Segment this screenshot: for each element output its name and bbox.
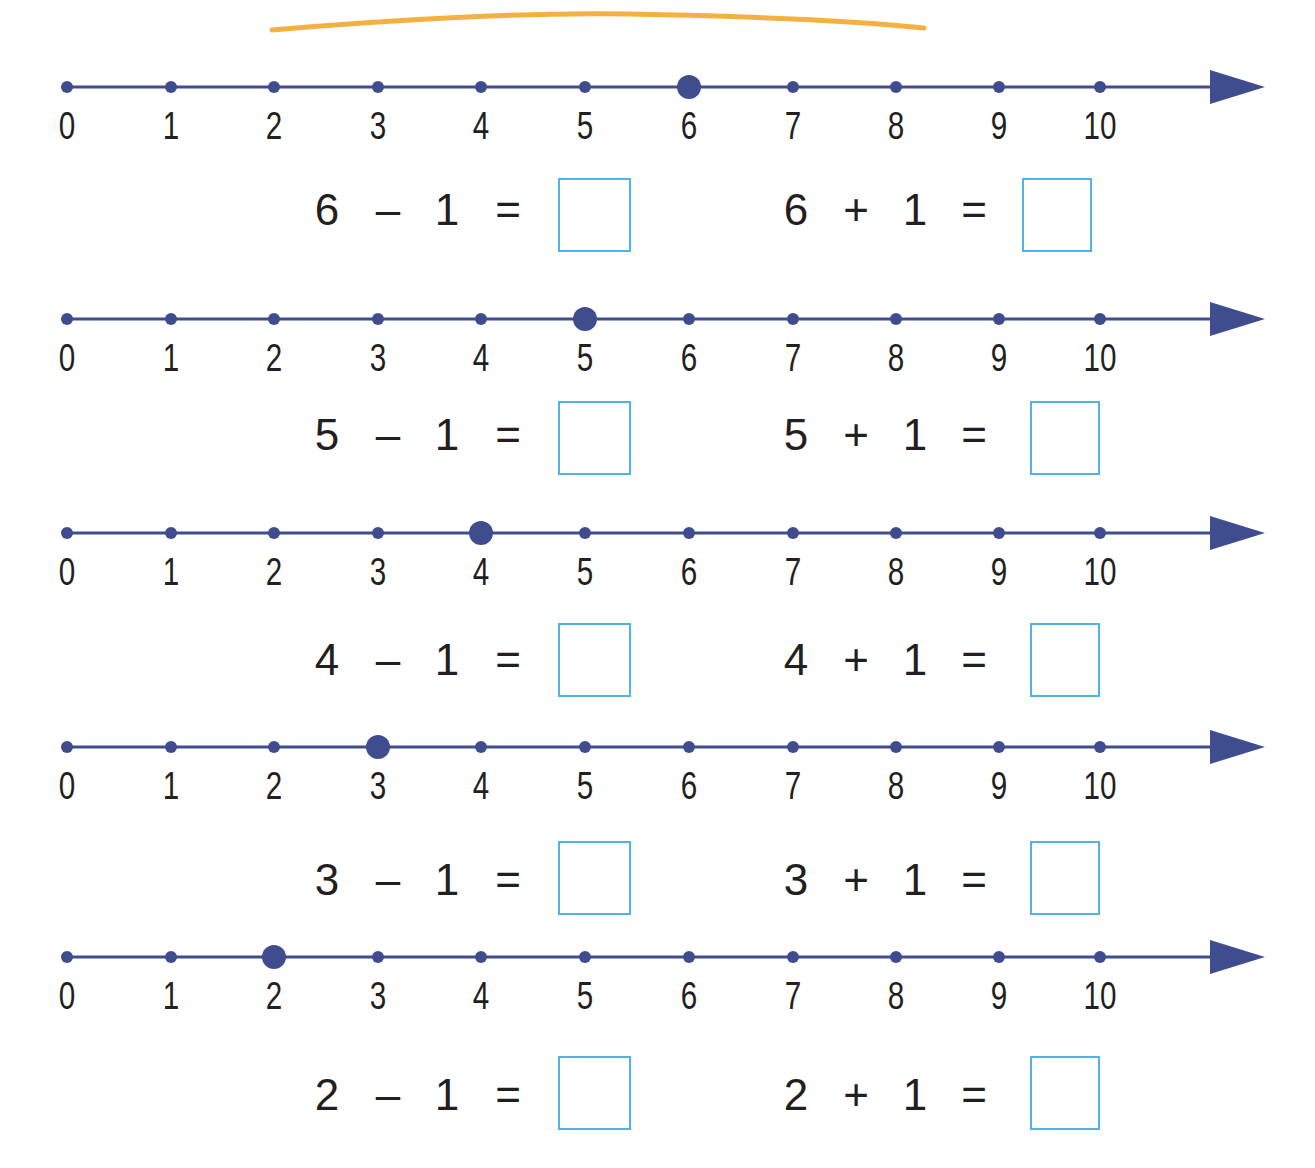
tick-point bbox=[268, 741, 280, 753]
operand-a: 5 bbox=[784, 413, 808, 457]
subtraction-answer-box[interactable] bbox=[558, 178, 631, 252]
subtraction-answer-box[interactable] bbox=[558, 623, 631, 697]
tick-point bbox=[1094, 313, 1106, 325]
tick-label: 8 bbox=[888, 107, 904, 145]
tick-label: 1 bbox=[163, 553, 179, 591]
tick-label: 5 bbox=[577, 107, 593, 145]
arrow-right-icon bbox=[1210, 302, 1265, 336]
operand-b: 1 bbox=[903, 858, 927, 902]
tick-label: 1 bbox=[163, 767, 179, 805]
operator: + bbox=[843, 413, 869, 457]
addition-answer-box[interactable] bbox=[1022, 178, 1092, 252]
tick-point bbox=[993, 81, 1005, 93]
tick-point bbox=[890, 313, 902, 325]
tick-point bbox=[787, 81, 799, 93]
arrow-right-icon bbox=[1210, 730, 1265, 764]
tick-label: 4 bbox=[473, 553, 489, 591]
tick-label: 4 bbox=[473, 107, 489, 145]
tick-point bbox=[61, 313, 73, 325]
operand-a: 6 bbox=[784, 188, 808, 232]
operator: – bbox=[376, 858, 400, 902]
tick-label: 4 bbox=[473, 767, 489, 805]
operand-b: 1 bbox=[903, 188, 927, 232]
addition-answer-box[interactable] bbox=[1030, 1056, 1100, 1130]
number-line bbox=[0, 937, 1315, 1017]
number-line bbox=[0, 299, 1315, 379]
arrow-right-icon bbox=[1210, 70, 1265, 104]
tick-point bbox=[683, 527, 695, 539]
tick-point bbox=[475, 313, 487, 325]
equals-sign: = bbox=[495, 413, 521, 457]
tick-label: 0 bbox=[59, 553, 75, 591]
tick-label: 0 bbox=[59, 767, 75, 805]
operand-b: 1 bbox=[435, 858, 459, 902]
subtraction-answer-box[interactable] bbox=[558, 841, 631, 915]
highlighted-point bbox=[366, 735, 390, 759]
highlighted-point bbox=[677, 75, 701, 99]
tick-point bbox=[579, 741, 591, 753]
tick-label: 9 bbox=[991, 553, 1007, 591]
equals-sign: = bbox=[495, 188, 521, 232]
addition-answer-box[interactable] bbox=[1030, 623, 1100, 697]
tick-point bbox=[61, 81, 73, 93]
operand-a: 6 bbox=[315, 188, 339, 232]
operand-a: 4 bbox=[315, 638, 339, 682]
equals-sign: = bbox=[961, 858, 987, 902]
tick-label: 4 bbox=[473, 339, 489, 377]
tick-label: 9 bbox=[991, 977, 1007, 1015]
tick-point bbox=[787, 527, 799, 539]
tick-point bbox=[1094, 81, 1106, 93]
tick-point bbox=[1094, 741, 1106, 753]
operator: + bbox=[843, 1073, 869, 1117]
equals-sign: = bbox=[961, 188, 987, 232]
tick-label: 10 bbox=[1084, 977, 1117, 1015]
tick-point bbox=[890, 741, 902, 753]
equals-sign: = bbox=[961, 413, 987, 457]
tick-label: 10 bbox=[1084, 767, 1117, 805]
subtraction-answer-box[interactable] bbox=[558, 401, 631, 475]
operand-a: 4 bbox=[784, 638, 808, 682]
tick-label: 6 bbox=[681, 553, 697, 591]
tick-label: 3 bbox=[370, 977, 386, 1015]
tick-label: 7 bbox=[785, 553, 801, 591]
operand-b: 1 bbox=[435, 1073, 459, 1117]
tick-point bbox=[579, 81, 591, 93]
addition-answer-box[interactable] bbox=[1030, 841, 1100, 915]
operand-b: 1 bbox=[903, 638, 927, 682]
tick-label: 5 bbox=[577, 339, 593, 377]
tick-point bbox=[372, 951, 384, 963]
operator: – bbox=[376, 188, 400, 232]
tick-point bbox=[993, 741, 1005, 753]
addition-answer-box[interactable] bbox=[1030, 401, 1100, 475]
tick-label: 7 bbox=[785, 767, 801, 805]
highlighted-point bbox=[262, 945, 286, 969]
tick-label: 0 bbox=[59, 339, 75, 377]
tick-point bbox=[683, 741, 695, 753]
tick-point bbox=[787, 313, 799, 325]
tick-point bbox=[890, 527, 902, 539]
tick-label: 5 bbox=[577, 767, 593, 805]
tick-label: 7 bbox=[785, 977, 801, 1015]
subtraction-answer-box[interactable] bbox=[558, 1056, 631, 1130]
tick-point bbox=[993, 951, 1005, 963]
tick-label: 10 bbox=[1084, 339, 1117, 377]
operand-b: 1 bbox=[435, 188, 459, 232]
tick-label: 8 bbox=[888, 553, 904, 591]
tick-label: 5 bbox=[577, 977, 593, 1015]
tick-point bbox=[787, 741, 799, 753]
tick-label: 10 bbox=[1084, 107, 1117, 145]
tick-label: 8 bbox=[888, 977, 904, 1015]
tick-point bbox=[61, 527, 73, 539]
number-line bbox=[0, 727, 1315, 807]
tick-point bbox=[372, 313, 384, 325]
tick-label: 2 bbox=[266, 339, 282, 377]
operand-b: 1 bbox=[903, 413, 927, 457]
tick-label: 2 bbox=[266, 107, 282, 145]
tick-label: 0 bbox=[59, 107, 75, 145]
tick-label: 2 bbox=[266, 553, 282, 591]
tick-label: 1 bbox=[163, 977, 179, 1015]
equals-sign: = bbox=[961, 638, 987, 682]
operand-a: 3 bbox=[315, 858, 339, 902]
tick-point bbox=[165, 81, 177, 93]
highlighted-point bbox=[469, 521, 493, 545]
